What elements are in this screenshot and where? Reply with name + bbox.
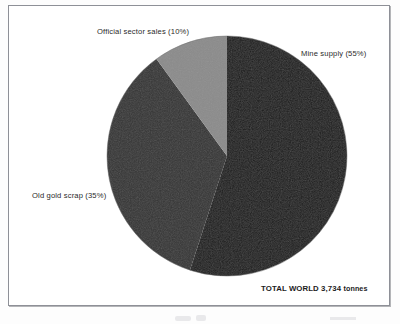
total-world-note: TOTAL WORLD 3,734 tonnes	[261, 285, 368, 293]
figure-canvas: Official sector sales (10%) Mine supply …	[0, 0, 400, 324]
scan-artifact	[175, 316, 191, 321]
pie-chart	[106, 35, 348, 277]
pie-chart-svg	[106, 35, 348, 277]
pie-label-official-sector-sales: Official sector sales (10%)	[97, 28, 189, 36]
pie-label-old-gold-scrap: Old gold scrap (35%)	[32, 192, 106, 200]
pie-label-mine-supply: Mine supply (55%)	[301, 50, 366, 58]
total-world-value: TOTAL WORLD 3,734	[261, 284, 341, 293]
figure-frame: Official sector sales (10%) Mine supply …	[8, 5, 390, 306]
scan-artifact	[196, 315, 206, 321]
scan-artifact	[330, 317, 356, 320]
total-world-unit: tonnes	[343, 284, 367, 293]
